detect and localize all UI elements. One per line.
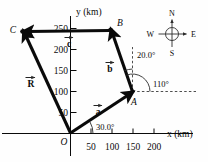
point-label-B: B xyxy=(117,18,123,28)
y-tick-marks xyxy=(71,29,77,113)
vector-label-R: R xyxy=(26,78,36,90)
vector-c-arrow xyxy=(28,31,110,32)
angle-arc-30 xyxy=(90,122,93,134)
x-tick-label-200: 200 xyxy=(147,142,162,152)
vector-label-b: b xyxy=(106,63,115,75)
vector-label-a: a xyxy=(94,106,103,118)
y-tick-label-150: 150 xyxy=(54,66,69,76)
compass-label-south: S xyxy=(170,49,174,58)
compass-label-east: E xyxy=(191,30,196,39)
point-dot-B xyxy=(108,28,113,33)
point-label-O: O xyxy=(61,137,68,147)
point-label-C: C xyxy=(10,25,17,35)
angle-label-110: 110° xyxy=(153,79,169,89)
point-dot-C xyxy=(20,29,25,34)
x-tick-label-50: 50 xyxy=(86,142,96,152)
point-label-A: A xyxy=(130,97,137,107)
x-tick-label-150: 150 xyxy=(126,142,141,152)
vector-label-a-text: a xyxy=(96,107,101,117)
angle-label-30: 30.0° xyxy=(96,122,114,132)
diagram-canvas: 50 100 150 200 x (km) 250 200 150 100 50… xyxy=(0,0,208,162)
x-axis-label: x (km) xyxy=(167,129,193,140)
y-axis-label: y (km) xyxy=(76,7,102,18)
vector-label-R-text: R xyxy=(28,79,35,89)
vector-label-b-text: b xyxy=(107,64,112,74)
angle-A-20: 20.0° xyxy=(125,50,156,71)
vector-group xyxy=(26,31,133,134)
compass-label-west: W xyxy=(146,30,154,39)
angle-label-20: 20.0° xyxy=(137,50,155,60)
point-dot-A xyxy=(130,89,134,93)
y-tick-label-100: 100 xyxy=(54,87,69,97)
vector-diagram-figure: 50 100 150 200 x (km) 250 200 150 100 50… xyxy=(0,0,208,162)
angle-origin-30: 30.0° xyxy=(90,122,114,134)
vector-b-arrow xyxy=(113,34,133,92)
vector-label-c-text: c xyxy=(67,39,71,49)
x-tick-labels: 50 100 150 200 xyxy=(86,142,161,152)
compass-label-north: N xyxy=(169,9,175,18)
x-tick-label-100: 100 xyxy=(105,142,120,152)
